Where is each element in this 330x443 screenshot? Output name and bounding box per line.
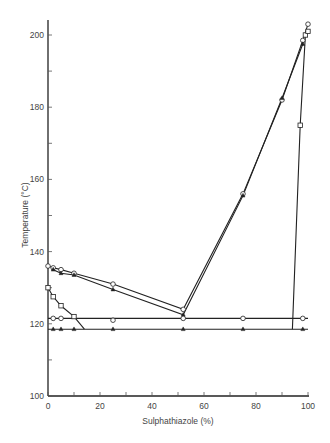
liquidus-triangles-line (53, 44, 303, 315)
x-tick-label: 20 (95, 401, 105, 411)
square-marker (46, 286, 50, 290)
circle-marker (51, 316, 56, 321)
circle-marker (111, 318, 116, 323)
y-tick-label: 180 (30, 102, 44, 112)
y-axis-title: Temperature (°C) (20, 182, 30, 247)
circle-marker (301, 316, 306, 321)
square-marker (298, 123, 302, 127)
squares-left-branch-line (48, 288, 84, 330)
circle-marker (59, 316, 64, 321)
series-markers (46, 22, 311, 331)
y-tick-label: 200 (30, 30, 44, 40)
reference-lines (48, 318, 308, 329)
x-tick-label: 0 (46, 401, 51, 411)
axes (48, 20, 309, 396)
x-tick-labels: 020406080100 (46, 401, 316, 411)
x-tick-label: 100 (301, 401, 315, 411)
square-marker (306, 29, 310, 33)
circle-marker (306, 22, 311, 27)
squares-right-branch-line (292, 31, 308, 329)
y-tick-label: 120 (30, 319, 44, 329)
circle-marker (181, 307, 186, 312)
square-marker (59, 304, 63, 308)
y-tick-label: 140 (30, 247, 44, 257)
circle-marker (181, 316, 186, 321)
circle-marker (111, 282, 116, 287)
y-tick-labels: 100120140160180200 (30, 30, 44, 401)
square-marker (72, 314, 76, 318)
series-lines (48, 24, 308, 329)
x-axis-title: Sulphathiazole (%) (142, 416, 214, 426)
y-tick-label: 100 (30, 391, 44, 401)
circle-marker (241, 316, 246, 321)
square-marker (51, 295, 55, 299)
liquidus-circles-line (48, 24, 308, 309)
circle-marker (46, 264, 51, 269)
x-tick-label: 80 (251, 401, 261, 411)
y-tick-label: 160 (30, 174, 44, 184)
phase-diagram-chart: 020406080100 100120140160180200 Sulphath… (0, 0, 330, 443)
x-tick-label: 60 (199, 401, 209, 411)
x-tick-label: 40 (147, 401, 157, 411)
